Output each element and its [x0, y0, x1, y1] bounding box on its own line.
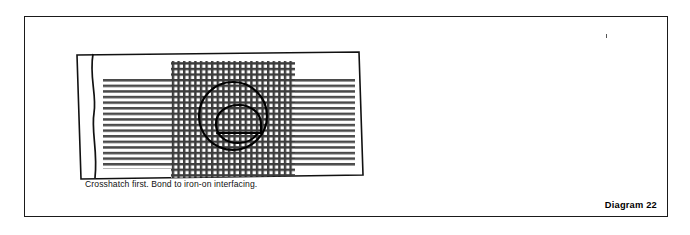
fabric-strip-illustration [71, 51, 365, 181]
caption-crosshatch-step: Crosshatch first. Bond to iron-on interf… [85, 180, 257, 189]
panel-crosshatch-step: Crosshatch first. Bond to iron-on interf… [25, 17, 346, 216]
diagram-number-label: Diagram 22 [605, 200, 657, 210]
horizontal-hatch-left [103, 79, 173, 169]
crosshatch-band [171, 61, 295, 179]
panel-cutout-step: Then cut out your appliqué. Diagram 22 [346, 17, 667, 216]
diagram-frame: Crosshatch first. Bond to iron-on interf… [24, 16, 668, 217]
diagram-figure: Crosshatch first. Bond to iron-on interf… [0, 0, 690, 235]
